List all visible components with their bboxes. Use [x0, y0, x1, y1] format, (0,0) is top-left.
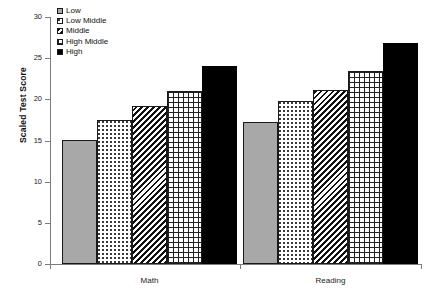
x-axis-line [50, 264, 422, 265]
x-category-label-math: Math [110, 276, 190, 285]
legend-swatch-icon [57, 8, 63, 14]
legend-item-high-middle[interactable]: High Middle [57, 37, 108, 47]
legend: LowLow MiddleMiddleHigh MiddleHigh [57, 6, 108, 57]
legend-swatch-icon [57, 18, 63, 24]
bar-reading-middle [313, 90, 348, 264]
x-tick-mark [421, 264, 422, 269]
legend-item-label: High Middle [66, 37, 108, 47]
bar-chart: Scaled Test Score 051015202530 MathReadi… [0, 0, 431, 296]
y-tick-mark [45, 182, 50, 183]
y-tick-label: 5 [38, 218, 42, 227]
legend-item-high[interactable]: High [57, 47, 108, 57]
legend-item-middle[interactable]: Middle [57, 26, 108, 36]
y-tick-label: 10 [34, 177, 42, 186]
y-tick-label: 20 [34, 94, 42, 103]
bar-math-middle [132, 106, 167, 264]
y-tick-label: 0 [38, 259, 42, 268]
legend-item-low-middle[interactable]: Low Middle [57, 16, 108, 26]
y-tick-mark [45, 17, 50, 18]
y-axis-line [50, 17, 51, 264]
legend-swatch-icon [57, 28, 63, 34]
legend-item-label: Middle [66, 26, 90, 36]
y-tick-mark [45, 141, 50, 142]
y-tick-label: 15 [34, 136, 42, 145]
y-tick-mark [45, 58, 50, 59]
x-tick-mark [240, 264, 241, 269]
x-category-label-reading: Reading [291, 276, 371, 285]
legend-item-label: Low [66, 6, 81, 16]
y-tick-label: 25 [34, 53, 42, 62]
y-tick-label: 30 [34, 12, 42, 21]
legend-item-label: High [66, 47, 82, 57]
y-tick-mark [45, 223, 50, 224]
legend-item-low[interactable]: Low [57, 6, 108, 16]
bar-reading-high-middle [348, 71, 383, 264]
bar-math-low-middle [97, 120, 132, 264]
legend-item-label: Low Middle [66, 16, 106, 26]
bar-reading-high [383, 43, 418, 264]
bar-reading-low-middle [278, 101, 313, 264]
bar-math-high-middle [167, 91, 202, 264]
legend-swatch-icon [57, 39, 63, 45]
x-tick-mark [50, 264, 51, 269]
bar-math-high [202, 66, 237, 264]
y-axis-title: Scaled Test Score [18, 30, 28, 180]
bar-math-low [62, 140, 97, 264]
y-tick-mark [45, 99, 50, 100]
bar-reading-low [243, 122, 278, 264]
legend-swatch-icon [57, 49, 63, 55]
